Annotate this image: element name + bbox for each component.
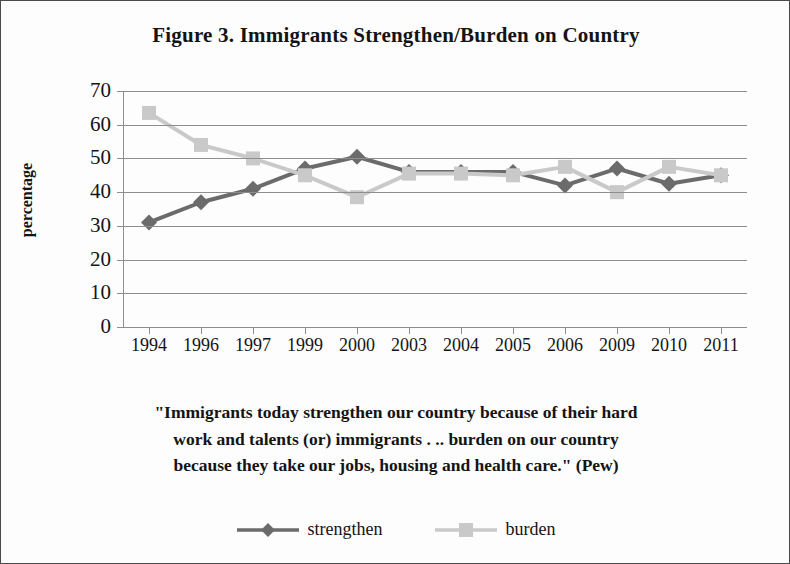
y-tick-label-30: 30 <box>53 215 111 236</box>
data-point-burden-1999 <box>298 168 312 182</box>
data-point-burden-2011 <box>714 168 728 182</box>
x-tickmark-2011 <box>721 327 722 334</box>
gridline-30 <box>123 226 747 227</box>
caption-line-2: work and talents (or) immigrants . .. bu… <box>96 426 696 453</box>
y-tickmark-60 <box>117 125 123 126</box>
gridline-0 <box>123 327 747 328</box>
data-point-burden-1996 <box>194 138 208 152</box>
data-point-burden-1994 <box>142 106 156 120</box>
legend-marker-diamond-icon <box>237 521 299 539</box>
data-point-strengthen-2000 <box>349 149 365 165</box>
legend-label-strengthen: strengthen <box>308 519 383 540</box>
x-axis-tick-labels: 1994199619971999200020032004200520062009… <box>123 335 747 365</box>
y-tick-label-20: 20 <box>53 249 111 270</box>
x-tickmark-2000 <box>357 327 358 334</box>
x-tickmark-2004 <box>461 327 462 334</box>
x-tickmark-1999 <box>305 327 306 334</box>
legend-entry-burden: burden <box>435 519 556 540</box>
series-line-strengthen <box>149 157 721 223</box>
series-plot <box>123 91 747 327</box>
data-point-strengthen-1996 <box>193 194 209 210</box>
caption-line-1: "Immigrants today strengthen our country… <box>96 399 696 426</box>
data-point-burden-2006 <box>558 160 572 174</box>
figure-caption: "Immigrants today strengthen our country… <box>96 399 696 479</box>
y-tick-label-10: 10 <box>53 282 111 303</box>
data-point-strengthen-2010 <box>661 176 677 192</box>
y-tick-label-40: 40 <box>53 181 111 202</box>
y-tick-label-70: 70 <box>53 80 111 101</box>
plot-area <box>123 91 747 327</box>
x-tickmark-1997 <box>253 327 254 334</box>
y-tick-label-0: 0 <box>53 316 111 337</box>
y-tick-label-60: 60 <box>53 114 111 135</box>
data-point-burden-2005 <box>506 168 520 182</box>
y-tickmark-30 <box>117 226 123 227</box>
y-axis-tick-labels: 010203040506070 <box>53 73 111 333</box>
y-tick-label-50: 50 <box>53 147 111 168</box>
chart-legend: strengthenburden <box>1 519 790 540</box>
caption-line-3: because they take our jobs, housing and … <box>96 452 696 479</box>
y-tickmark-0 <box>117 327 123 328</box>
x-tickmark-2006 <box>565 327 566 334</box>
y-tickmark-40 <box>117 192 123 193</box>
gridline-60 <box>123 125 747 126</box>
y-axis-title: percentage <box>18 130 36 270</box>
x-tickmark-2009 <box>617 327 618 334</box>
legend-label-burden: burden <box>506 519 556 540</box>
data-point-strengthen-1994 <box>141 214 157 230</box>
gridline-20 <box>123 260 747 261</box>
legend-marker-square-icon <box>435 521 497 539</box>
data-point-strengthen-1997 <box>245 181 261 197</box>
y-tickmark-50 <box>117 158 123 159</box>
gridline-10 <box>123 293 747 294</box>
data-point-strengthen-2009 <box>609 161 625 177</box>
gridline-50 <box>123 158 747 159</box>
data-point-burden-2003 <box>402 167 416 181</box>
y-tickmark-20 <box>117 260 123 261</box>
y-tickmark-10 <box>117 293 123 294</box>
gridline-40 <box>123 192 747 193</box>
data-point-burden-2004 <box>454 167 468 181</box>
x-tickmark-1996 <box>201 327 202 334</box>
x-tickmark-1994 <box>149 327 150 334</box>
data-point-burden-2010 <box>662 160 676 174</box>
gridline-70 <box>123 91 747 92</box>
data-point-strengthen-2006 <box>557 177 573 193</box>
x-tickmark-2005 <box>513 327 514 334</box>
figure-title: Figure 3. Immigrants Strengthen/Burden o… <box>1 23 790 48</box>
x-tickmark-2003 <box>409 327 410 334</box>
x-tick-label-2011: 2011 <box>686 335 756 356</box>
figure-container: Figure 3. Immigrants Strengthen/Burden o… <box>0 0 790 564</box>
plot-wrapper: percentage 010203040506070 1994199619971… <box>1 73 790 373</box>
legend-entry-strengthen: strengthen <box>237 519 383 540</box>
x-tickmark-2010 <box>669 327 670 334</box>
y-tickmark-70 <box>117 91 123 92</box>
